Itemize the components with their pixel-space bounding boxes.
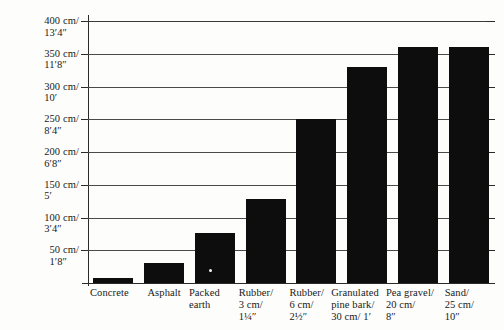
category-label: Concrete [80, 287, 138, 299]
category-label: Pea gravel/ 20 cm/ 8″ [386, 287, 448, 322]
y-tick-label-imperial: 13′4″ [44, 27, 79, 39]
y-axis-tick-label: 150 cm/5′ [44, 179, 79, 202]
bar [195, 233, 235, 283]
y-tick-label-cm: 250 cm/ [44, 113, 79, 124]
scan-artifact-speck [209, 269, 212, 272]
y-axis-tick [81, 152, 88, 153]
y-axis-tick [81, 119, 88, 120]
y-tick-label-cm: 300 cm/ [44, 81, 79, 92]
y-axis-tick-label: 200 cm/6′8″ [44, 146, 79, 169]
y-tick-label-cm: 150 cm/ [44, 179, 79, 190]
y-axis-tick [81, 185, 88, 186]
y-tick-label-imperial: 8′4″ [44, 125, 79, 137]
bar-chart: 400 cm/13′4″350 cm/11′8″300 cm/10′250 cm… [0, 0, 504, 330]
bar [398, 47, 438, 283]
x-axis-category-labels: ConcreteAsphaltPacked earthRubber/ 3 cm/… [88, 287, 494, 330]
y-axis-tick [81, 21, 88, 22]
y-axis-tick-label: 300 cm/10′ [44, 81, 79, 104]
y-axis-tick-right [487, 283, 495, 284]
y-axis-tick-label: 100 cm/3′4″ [44, 212, 79, 235]
bar [144, 263, 184, 283]
y-tick-label-cm: 200 cm/ [44, 146, 79, 157]
y-tick-label-imperial: 3′4″ [44, 223, 79, 235]
y-tick-label-imperial: 10′ [44, 92, 79, 104]
y-axis-tick [81, 250, 88, 251]
plot-area: 400 cm/13′4″350 cm/11′8″300 cm/10′250 cm… [88, 21, 494, 283]
category-label: Sand/ 25 cm/ 10″ [445, 287, 497, 322]
category-label: Rubber/ 3 cm/ 1¼″ [239, 287, 297, 322]
y-tick-label-cm: 350 cm/ [44, 48, 79, 59]
bar [347, 67, 387, 283]
y-tick-label-cm: 400 cm/ [44, 15, 79, 26]
y-tick-label-imperial: 11′8″ [44, 59, 79, 71]
y-axis-tick-label: 50 cm/1′8″ [50, 244, 79, 267]
y-axis-tick [81, 218, 88, 219]
y-tick-label-imperial: 5′ [44, 190, 79, 202]
y-axis-tick-label: 350 cm/11′8″ [44, 48, 79, 71]
y-axis-tick-label: 400 cm/13′4″ [44, 15, 79, 38]
x-axis-baseline [82, 283, 494, 284]
y-tick-label-imperial: 1′8″ [50, 256, 79, 268]
y-axis-tick [81, 54, 88, 55]
bar [449, 47, 489, 283]
bar [296, 119, 336, 283]
y-tick-label-cm: 100 cm/ [44, 212, 79, 223]
bar [93, 278, 133, 283]
category-label: Packed earth [189, 287, 243, 311]
y-tick-label-cm: 50 cm/ [50, 244, 79, 255]
bars-group [88, 21, 494, 283]
y-tick-label-imperial: 6′8″ [44, 158, 79, 170]
category-label: Asphalt [138, 287, 190, 299]
y-axis-tick-label: 250 cm/8′4″ [44, 113, 79, 136]
bar [246, 199, 286, 283]
y-axis-tick [81, 87, 88, 88]
